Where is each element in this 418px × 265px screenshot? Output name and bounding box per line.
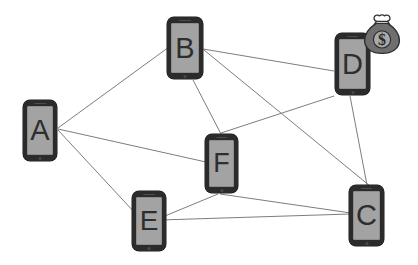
phone-screen-b: B (171, 23, 199, 73)
edge-b-d (203, 49, 334, 71)
phone-label-c: C (356, 201, 377, 230)
phone-speaker-icon (361, 188, 373, 190)
edge-a-b (58, 47, 169, 128)
phone-node-b[interactable]: B (167, 17, 203, 79)
money-bag-icon: $ (361, 12, 403, 56)
phone-speaker-icon (34, 103, 46, 105)
phone-screen-c: C (353, 191, 380, 240)
edge-a-e (58, 130, 135, 213)
phone-speaker-icon (143, 194, 155, 196)
edge-b-f (193, 80, 221, 134)
phone-node-e[interactable]: E (132, 191, 166, 251)
phone-speaker-icon (347, 36, 359, 38)
phone-home-button (365, 242, 368, 245)
edge-e-c (160, 214, 350, 220)
phone-node-c[interactable]: C (349, 185, 384, 246)
phone-home-button (220, 189, 223, 192)
phone-label-d: D (342, 50, 363, 79)
edge-f-e (160, 194, 218, 218)
phone-label-b: B (175, 34, 194, 63)
phone-home-button (148, 247, 151, 250)
phone-speaker-icon (216, 137, 227, 139)
phone-screen-a: A (27, 106, 53, 155)
phone-home-button (39, 157, 42, 160)
edge-f-c (220, 194, 351, 213)
phone-home-button (184, 75, 187, 78)
phone-speaker-icon (179, 20, 191, 22)
phone-screen-f: F (209, 140, 234, 187)
phone-label-a: A (30, 116, 49, 145)
edge-a-f (58, 129, 206, 162)
phone-node-f[interactable]: F (205, 134, 238, 193)
phone-home-button (351, 91, 354, 94)
phone-screen-e: E (136, 197, 162, 245)
phone-label-f: F (213, 150, 230, 177)
phone-label-e: E (140, 207, 159, 235)
phone-node-a[interactable]: A (23, 100, 57, 161)
edge-d-f (221, 96, 334, 133)
network-diagram-canvas: ABDFEC $ (0, 0, 418, 265)
svg-text:$: $ (378, 31, 386, 48)
